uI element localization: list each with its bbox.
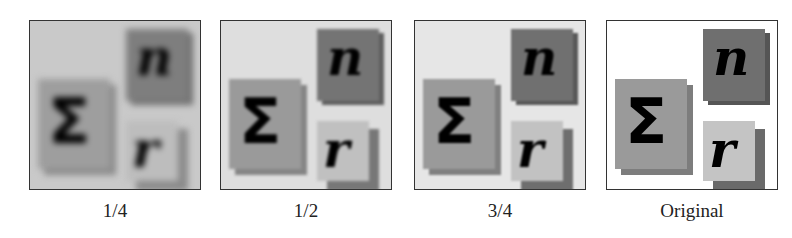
sigma-glyph: Σ: [48, 91, 90, 153]
caption-three-quarter: 3/4: [414, 200, 586, 222]
panel-content: Σ n r: [30, 21, 200, 189]
caption-original: Original: [606, 200, 778, 222]
n-glyph: n: [136, 33, 172, 83]
panel-quarter-resolution: Σ n r: [29, 20, 201, 190]
caption-quarter: 1/4: [29, 200, 201, 222]
n-glyph: n: [327, 33, 363, 83]
sigma-glyph: Σ: [625, 91, 667, 153]
r-glyph: r: [132, 125, 158, 175]
n-glyph: n: [521, 33, 557, 83]
sigma-glyph: Σ: [239, 91, 281, 153]
r-glyph: r: [517, 125, 543, 175]
panel-content: Σ n r: [221, 21, 391, 189]
panel-original: Σ n r: [606, 20, 778, 190]
panel-content: Σ n r: [415, 21, 585, 189]
panel-content: Σ n r: [607, 21, 777, 189]
r-glyph: r: [709, 125, 735, 175]
caption-half: 1/2: [220, 200, 392, 222]
panel-half-resolution: Σ n r: [220, 20, 392, 190]
r-glyph: r: [323, 125, 349, 175]
panel-three-quarter-resolution: Σ n r: [414, 20, 586, 190]
sigma-glyph: Σ: [433, 91, 475, 153]
n-glyph: n: [713, 33, 749, 83]
